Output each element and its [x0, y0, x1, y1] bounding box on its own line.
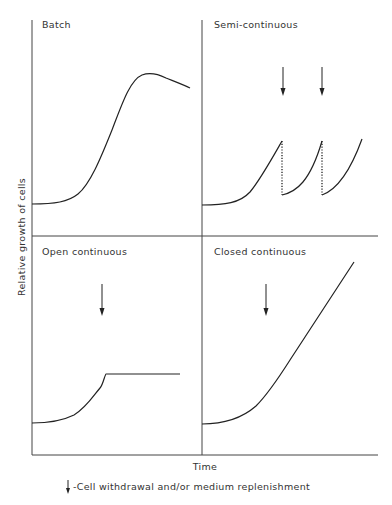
legend-arrow-icon	[66, 480, 70, 494]
x-axis-label: Time	[192, 461, 217, 472]
semi-continuous-curve-1	[202, 141, 282, 205]
arrow-down-icon	[281, 67, 286, 96]
arrow-down-icon	[264, 284, 269, 316]
semi-continuous-curve-3	[322, 139, 362, 195]
batch-curve	[32, 74, 190, 204]
legend-text: -Cell withdrawal and/or medium replenish…	[73, 481, 310, 492]
arrow-down-icon	[100, 284, 105, 316]
growth-modes-diagram: Batch Semi-continuous Open continuous Cl…	[0, 0, 392, 505]
arrow-down-icon	[320, 67, 325, 96]
y-axis-label: Relative growth of cells	[16, 178, 27, 296]
panel-title-batch: Batch	[42, 19, 71, 30]
panel-title-closed-continuous: Closed continuous	[214, 246, 306, 257]
closed-continuous-curve	[202, 262, 354, 424]
panel-title-open-continuous: Open continuous	[42, 246, 127, 257]
open-continuous-curve	[32, 374, 180, 423]
semi-continuous-curve-2	[282, 141, 322, 195]
panel-title-semi-continuous: Semi-continuous	[214, 19, 298, 30]
